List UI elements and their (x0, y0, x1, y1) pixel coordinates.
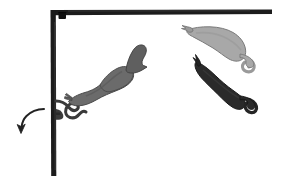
substrate-corner-node-shadow (58, 12, 66, 13)
figure-canvas (0, 0, 288, 183)
figure-background (0, 0, 288, 183)
substrate-corner-node-icon (59, 13, 67, 20)
stalk-base-attachment (56, 113, 61, 116)
figure-root: Scientific illustration: organisms attac… (0, 0, 288, 183)
